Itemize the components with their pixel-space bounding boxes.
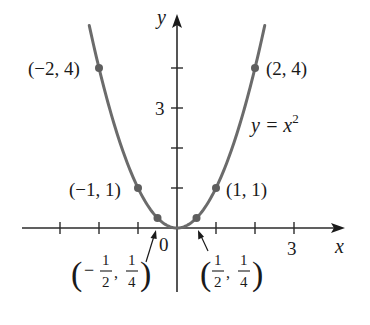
function-label-exponent: 2 [292, 111, 299, 126]
comma: , [226, 264, 230, 281]
pointer-arrowhead-half-icon [198, 230, 204, 240]
function-label: y = x2 [249, 111, 299, 137]
function-label-base: y = x [249, 114, 292, 137]
paren-close: ) [252, 255, 263, 293]
parabola-chart: y x 0 3 3 y = x2 (−2, 4) (2, 4) (−1, 1) … [0, 0, 370, 325]
frac-den-1: 2 [214, 274, 222, 290]
point-label-neg-half-quarter: ( − 1 2 , 1 4 ) [71, 252, 151, 293]
point-label-1-1: (1, 1) [226, 179, 267, 201]
y-tick-label-3: 3 [155, 98, 165, 119]
data-point-marker [95, 64, 103, 72]
frac-den-1: 2 [102, 274, 110, 290]
data-point-marker [154, 214, 162, 222]
frac-den-2: 4 [128, 274, 136, 290]
data-point-marker [134, 184, 142, 192]
pointer-arrow-half [201, 236, 208, 251]
comma: , [114, 264, 118, 281]
point-label-neg2-4: (−2, 4) [28, 58, 80, 80]
data-point-marker [212, 184, 220, 192]
point-label-neg1-1: (−1, 1) [69, 179, 121, 201]
minus-sign: − [84, 260, 94, 280]
point-label-2-4: (2, 4) [266, 58, 307, 80]
pointer-arrowhead-neg-half-icon [151, 230, 157, 239]
axes [22, 14, 345, 292]
frac-num-2: 1 [128, 252, 136, 268]
x-tick-label-3: 3 [287, 238, 297, 259]
x-axis-label: x [334, 235, 344, 257]
data-point-marker [193, 214, 201, 222]
paren-open: ( [200, 255, 211, 293]
frac-num-1: 1 [102, 252, 110, 268]
frac-num-1: 1 [214, 252, 222, 268]
origin-label: 0 [159, 234, 169, 255]
point-label-half-quarter: ( 1 2 , 1 4 ) [200, 252, 263, 293]
frac-den-2: 4 [240, 274, 248, 290]
paren-close: ) [140, 255, 151, 293]
data-point-marker [251, 64, 259, 72]
y-axis-label: y [155, 6, 166, 29]
frac-num-2: 1 [240, 252, 248, 268]
paren-open: ( [71, 255, 82, 293]
